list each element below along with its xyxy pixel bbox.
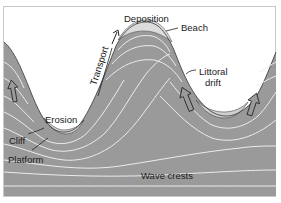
label-deposition: Deposition — [124, 13, 169, 24]
label-erosion: Erosion — [45, 114, 77, 125]
label-cliff: Cliff — [9, 135, 26, 146]
label-littoral-drift-line2: drift — [205, 77, 221, 88]
coastal-erosion-diagram: Deposition Beach Transport Littoral drif… — [0, 0, 281, 203]
label-beach: Beach — [181, 22, 208, 33]
label-littoral-drift-line1: Littoral — [199, 66, 228, 77]
label-wave-crests: Wave crests — [141, 170, 193, 181]
label-platform: Platform — [8, 154, 43, 165]
